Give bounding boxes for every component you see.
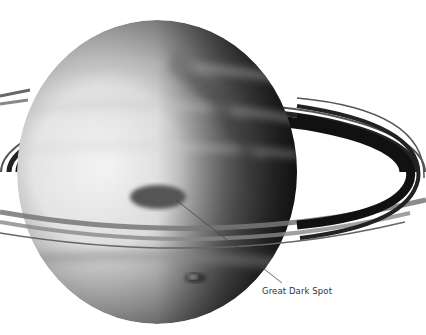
great-dark-spot [130,185,186,209]
planet-body [17,20,300,324]
planet-diagram [0,0,426,335]
label-great-dark-spot: Great Dark Spot [262,286,332,296]
